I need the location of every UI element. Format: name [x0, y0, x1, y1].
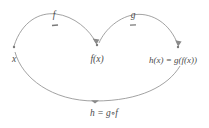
arc-g	[99, 14, 178, 45]
arrow-label-f: f	[53, 11, 56, 21]
arrow-label-h: h = g∘f	[90, 109, 118, 119]
composition-diagram-figure: x f(x) h(x) = g(f(x)) f g h = g∘f	[0, 0, 209, 128]
arc-f-apex-marker	[52, 25, 58, 26]
node-label-hx: h(x) = g(f(x))	[149, 56, 197, 65]
arrowhead-h	[91, 100, 99, 103]
arrowhead-f	[93, 39, 100, 45]
arrow-label-g: g	[131, 11, 136, 21]
node-label-fx: f(x)	[90, 55, 103, 65]
node-dot-x	[13, 46, 15, 48]
arrowhead-g	[175, 40, 181, 46]
node-dot-hx	[177, 46, 179, 48]
node-dot-fx	[96, 44, 98, 46]
node-label-x: x	[12, 55, 16, 65]
